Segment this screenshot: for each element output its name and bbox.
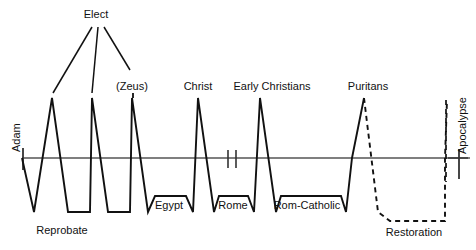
timeline-axis-group xyxy=(22,148,470,179)
elect-connector-middle xyxy=(92,27,98,93)
label-early-christians: Early Christians xyxy=(233,80,311,92)
label-puritans: Puritans xyxy=(348,80,389,92)
label-christ: Christ xyxy=(184,80,213,92)
elect-connector-right xyxy=(104,27,130,70)
label-adam: Adam xyxy=(10,123,22,152)
elect-connector-left xyxy=(53,27,92,93)
label-apocalypse: Apocalypse xyxy=(456,97,468,154)
label-reprobate: Reprobate xyxy=(36,224,87,236)
label-zeus: (Zeus) xyxy=(116,80,148,92)
label-rom-catholic: Rom-Catholic xyxy=(274,199,341,211)
diagram-canvas: Elect (Zeus) Christ Early Christians Pur… xyxy=(0,0,476,250)
diagram-svg: Elect (Zeus) Christ Early Christians Pur… xyxy=(0,0,476,250)
history-waveform-solid xyxy=(22,98,364,212)
label-restoration: Restoration xyxy=(386,226,442,238)
label-egypt: Egypt xyxy=(155,199,183,211)
restoration-waveform-dashed xyxy=(364,98,447,221)
label-rome: Rome xyxy=(218,199,247,211)
label-elect: Elect xyxy=(84,8,108,20)
